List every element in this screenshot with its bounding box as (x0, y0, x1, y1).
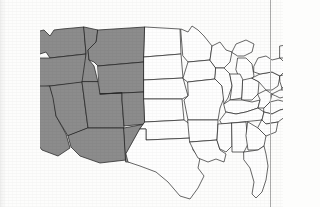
state-sd[interactable]: South Dakota (144, 54, 183, 80)
state-ar[interactable]: Arkansas (188, 120, 218, 142)
state-ms[interactable]: Mississippi (217, 123, 232, 152)
us-states-map-figure: WashingtonOregonCaliforniaNevadaIdahoMon… (40, 16, 283, 207)
state-mo[interactable]: Missouri (184, 79, 224, 120)
state-ia[interactable]: Iowa (183, 60, 216, 82)
state-wy[interactable]: Wyoming (98, 62, 144, 94)
state-al[interactable]: Alabama (232, 122, 248, 152)
state-vt[interactable]: Vermont (280, 45, 283, 58)
state-wi[interactable]: Wisconsin (210, 42, 232, 68)
states-layer: WashingtonOregonCaliforniaNevadaIdahoMon… (40, 26, 283, 199)
state-wa[interactable]: Washington (40, 27, 86, 58)
state-fl[interactable]: Florida (244, 146, 268, 198)
state-nd[interactable]: North Dakota (144, 27, 181, 57)
state-ok[interactable]: Oklahoma (140, 120, 192, 140)
state-az[interactable]: Arizona (68, 128, 126, 163)
state-nj[interactable]: New Jersey (280, 74, 283, 88)
us-states-map: WashingtonOregonCaliforniaNevadaIdahoMon… (40, 16, 283, 207)
state-ne[interactable]: Nebraska (144, 78, 188, 99)
page-margin-rule (270, 0, 271, 207)
state-oh[interactable]: Ohio (242, 78, 259, 100)
state-md[interactable]: Maryland (272, 90, 283, 98)
state-mn[interactable]: Minnesota (181, 26, 212, 62)
state-ks[interactable]: Kansas (144, 99, 184, 122)
state-in[interactable]: Indiana (230, 74, 243, 100)
